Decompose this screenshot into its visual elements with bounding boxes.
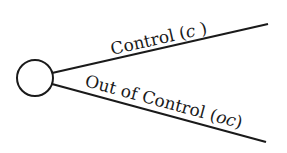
chance-node-circle	[17, 60, 53, 96]
branch-label-out-of-control: Out of Control (oc)	[83, 71, 245, 133]
branch-label-control: Control (c )	[108, 18, 208, 59]
diagram-canvas: Control (c ) Out of Control (oc)	[0, 0, 287, 153]
decision-tree-svg: Control (c ) Out of Control (oc)	[0, 0, 287, 153]
